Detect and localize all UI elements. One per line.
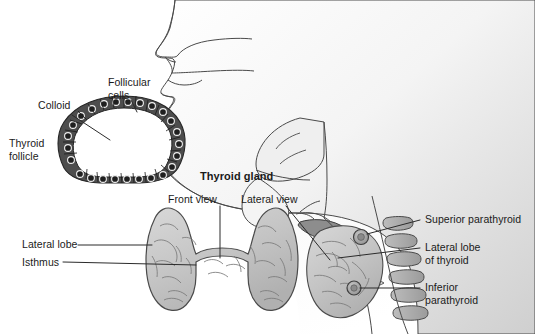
vertebra bbox=[385, 234, 417, 249]
thyroid-follicle-diagram bbox=[58, 96, 185, 183]
label-thyroid-gland-title: Thyroid gland bbox=[200, 170, 273, 183]
vertebra bbox=[389, 270, 424, 285]
label-isthmus: Isthmus bbox=[22, 256, 59, 269]
label-colloid: Colloid bbox=[38, 99, 70, 112]
label-thyroid-follicle: Thyroid follicle bbox=[9, 137, 44, 162]
label-superior-parathyroid: Superior parathyroid bbox=[425, 213, 521, 226]
label-front-view: Front view bbox=[168, 193, 217, 206]
label-lateral-lobe-of-thyroid: Lateral lobe of thyroid bbox=[425, 241, 480, 266]
label-inferior-parathyroid: Inferior parathyroid bbox=[425, 281, 478, 306]
vertebra bbox=[387, 252, 421, 267]
inferior-parathyroid-core bbox=[351, 285, 357, 291]
thyroid-anatomy-figure: Follicular cells Colloid Thyroid follicl… bbox=[0, 0, 535, 334]
label-follicular-cells: Follicular cells bbox=[108, 76, 151, 101]
colloid-lumen bbox=[73, 108, 172, 177]
label-lateral-lobe: Lateral lobe bbox=[22, 238, 77, 251]
label-lateral-view: Lateral view bbox=[241, 193, 298, 206]
superior-parathyroid-core bbox=[358, 234, 365, 241]
vertebra bbox=[393, 306, 428, 321]
